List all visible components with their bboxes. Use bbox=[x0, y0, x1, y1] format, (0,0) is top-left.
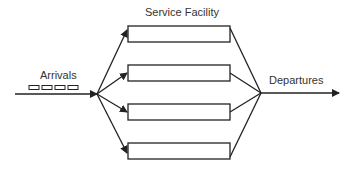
branch-arrow-1 bbox=[97, 30, 127, 94]
queue-item bbox=[29, 86, 39, 90]
arrivals-label: Arrivals bbox=[40, 69, 77, 81]
server-box-1 bbox=[128, 26, 230, 42]
service-facility-label: Service Facility bbox=[145, 6, 219, 18]
queueing-diagram bbox=[0, 0, 351, 173]
server-box-3 bbox=[128, 104, 230, 120]
queue-item bbox=[55, 86, 65, 90]
arrival-queue bbox=[29, 86, 78, 90]
queue-item bbox=[68, 86, 78, 90]
server-box-4 bbox=[128, 143, 230, 159]
departures-label: Departures bbox=[269, 74, 323, 86]
queue-item bbox=[42, 86, 52, 90]
server-box-2 bbox=[128, 65, 230, 81]
